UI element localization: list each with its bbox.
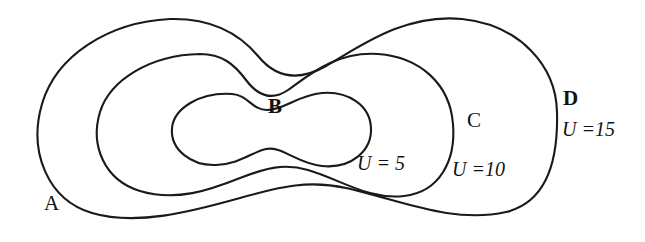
region-label-c: C [467, 110, 481, 131]
equipotential-diagram: A B C D U = 5 U =10 U =15 [0, 0, 645, 242]
region-label-b: B [268, 96, 282, 117]
potential-label-u10: U =10 [452, 159, 505, 179]
potential-label-u15: U =15 [562, 119, 615, 139]
potential-label-u5: U = 5 [357, 153, 405, 173]
contour-curve-u10 [97, 54, 453, 197]
region-label-d: D [563, 88, 578, 109]
contour-canvas [0, 0, 645, 242]
region-label-a: A [44, 193, 59, 214]
